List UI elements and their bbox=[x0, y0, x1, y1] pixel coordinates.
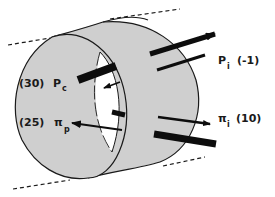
pi-p-subscript: p bbox=[64, 125, 70, 134]
pi-p-symbol: π bbox=[54, 116, 63, 129]
pi-i-symbol: π bbox=[218, 112, 227, 125]
pi-i-subscript: i bbox=[227, 120, 230, 129]
pc-subscript: c bbox=[62, 84, 67, 93]
p-i-symbol: P bbox=[218, 54, 226, 67]
pi-p-inner-bar bbox=[112, 112, 125, 115]
lower-dashed-line bbox=[13, 180, 70, 189]
p-i-value: (-1) bbox=[237, 54, 259, 67]
pc-value: (30) bbox=[19, 77, 44, 90]
lower-dashed-line-right bbox=[163, 157, 205, 166]
pc-symbol: P bbox=[53, 77, 61, 90]
label-pi-i: π i (10) bbox=[218, 112, 261, 129]
p-i-subscript: i bbox=[227, 62, 230, 71]
capillary-diagram: (30) P c (25) π p P i (-1) π i (10) bbox=[0, 0, 275, 197]
label-p-i: P i (-1) bbox=[218, 54, 259, 71]
pi-p-value: (25) bbox=[19, 116, 44, 129]
pi-i-value: (10) bbox=[236, 112, 261, 125]
